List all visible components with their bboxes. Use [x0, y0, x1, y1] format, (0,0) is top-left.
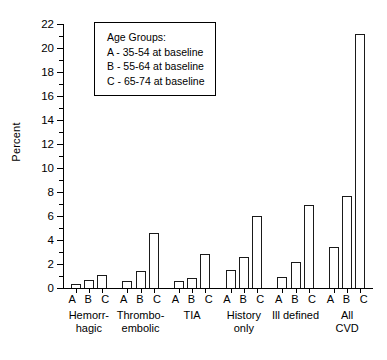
- x-group-6: A B CAllCVD: [302, 293, 387, 335]
- y-tick-mark: [57, 48, 63, 49]
- x-axis-line: [63, 288, 373, 289]
- y-tick-mark: [57, 24, 63, 25]
- x-group-name-line2: only: [199, 322, 289, 335]
- bar: [329, 247, 339, 288]
- y-tick-mark: [57, 216, 63, 217]
- legend-title: Age Groups:: [107, 30, 204, 45]
- y-tick-mark: [57, 144, 63, 145]
- bar: [84, 280, 94, 288]
- y-tick-minor: [59, 108, 63, 109]
- x-group-name-line1: All: [302, 309, 387, 322]
- y-tick-label: 20: [41, 42, 54, 54]
- y-tick-label: 6: [48, 210, 54, 222]
- bar: [277, 277, 287, 288]
- legend-item-a: A - 35-54 at baseline: [107, 45, 204, 60]
- x-group-abc-labels: A B C: [302, 293, 387, 305]
- y-tick-mark: [57, 288, 63, 289]
- bar: [97, 275, 107, 288]
- bar: [304, 205, 314, 288]
- y-tick-minor: [59, 156, 63, 157]
- y-tick-mark: [57, 264, 63, 265]
- bar: [187, 278, 197, 288]
- y-tick-mark: [57, 240, 63, 241]
- y-tick-minor: [59, 132, 63, 133]
- legend-item-c: C - 65-74 at baseline: [107, 74, 204, 89]
- y-tick-label: 2: [48, 258, 54, 270]
- bar-chart: Percent 0246810121416182022 A B CHemorr-…: [0, 0, 387, 360]
- y-tick-label: 16: [41, 90, 54, 102]
- y-tick-minor: [59, 60, 63, 61]
- y-tick-mark: [57, 192, 63, 193]
- y-axis-line: [63, 24, 64, 288]
- y-tick-minor: [59, 252, 63, 253]
- bar: [291, 262, 301, 288]
- y-tick-label: 14: [41, 114, 54, 126]
- y-tick-label: 10: [41, 162, 54, 174]
- y-tick-label: 18: [41, 66, 54, 78]
- y-tick-mark: [57, 72, 63, 73]
- y-tick-minor: [59, 228, 63, 229]
- y-tick-minor: [59, 84, 63, 85]
- y-tick-mark: [57, 120, 63, 121]
- y-tick-minor: [59, 180, 63, 181]
- bar: [200, 254, 210, 288]
- legend-item-b: B - 55-64 at baseline: [107, 59, 204, 74]
- bar: [174, 281, 184, 288]
- y-tick-label: 22: [41, 18, 54, 30]
- y-tick-minor: [59, 204, 63, 205]
- y-tick-mark: [57, 168, 63, 169]
- bar: [226, 270, 236, 288]
- bar: [122, 281, 132, 288]
- y-axis-title: Percent: [10, 102, 22, 182]
- x-group-name-line2: embolic: [96, 322, 186, 335]
- bar: [355, 34, 365, 288]
- bar: [252, 216, 262, 288]
- y-tick-label: 12: [41, 138, 54, 150]
- y-tick-label: 4: [48, 234, 54, 246]
- y-tick-minor: [59, 36, 63, 37]
- bar: [149, 233, 159, 288]
- bar: [136, 271, 146, 288]
- bar: [239, 257, 249, 288]
- x-axis-labels: A B CHemorr-hagicA B CThrombo-embolicA B…: [63, 293, 373, 357]
- x-group-name-line2: CVD: [302, 322, 387, 335]
- legend: Age Groups: A - 35-54 at baseline B - 55…: [94, 22, 216, 96]
- bar: [342, 196, 352, 288]
- y-tick-mark: [57, 96, 63, 97]
- y-tick-minor: [59, 276, 63, 277]
- y-tick-label: 8: [48, 186, 54, 198]
